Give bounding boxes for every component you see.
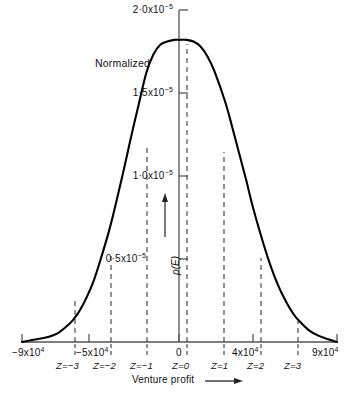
z-label-2: Z=2 <box>247 361 264 371</box>
y-tick-label-1: 1·0x10−5 <box>95 171 173 181</box>
z-label-0: Z=0 <box>172 361 189 371</box>
z-label-3: Z=3 <box>284 361 301 371</box>
z-label--1: Z=−1 <box>130 361 153 371</box>
rho-axis-arrow <box>162 193 168 237</box>
x-axis-title: Venture profit <box>132 375 194 385</box>
z-label--3: Z=−3 <box>56 361 79 371</box>
x-tick-label--9e4: −9x104 <box>12 348 45 358</box>
x-tick-label--5e4: −5x104 <box>76 348 109 358</box>
y-tick-label-2: 2·0x10−5 <box>95 5 173 15</box>
plot-area <box>0 0 353 394</box>
chart-figure: 2·0x10−5 1·5x10−5 1·0x10−5 0·5x10−5 Norm… <box>0 0 353 394</box>
z-label--2: Z=−2 <box>93 361 116 371</box>
normalized-annotation: Normalized <box>95 58 150 69</box>
x-tick-label-0: 0 <box>176 348 182 358</box>
x-tick-label-4e4: 4x104 <box>232 348 259 358</box>
y-axis-title: ρ(E) <box>170 256 181 275</box>
z-label-1: Z=1 <box>211 361 228 371</box>
y-tick-label-0.5: 0·5x10−5 <box>68 254 146 264</box>
x-tick-label-9e4: 9x104 <box>312 348 339 358</box>
y-tick-label-1.5: 1·5x10−5 <box>95 88 173 98</box>
venture-profit-arrow <box>205 378 243 384</box>
